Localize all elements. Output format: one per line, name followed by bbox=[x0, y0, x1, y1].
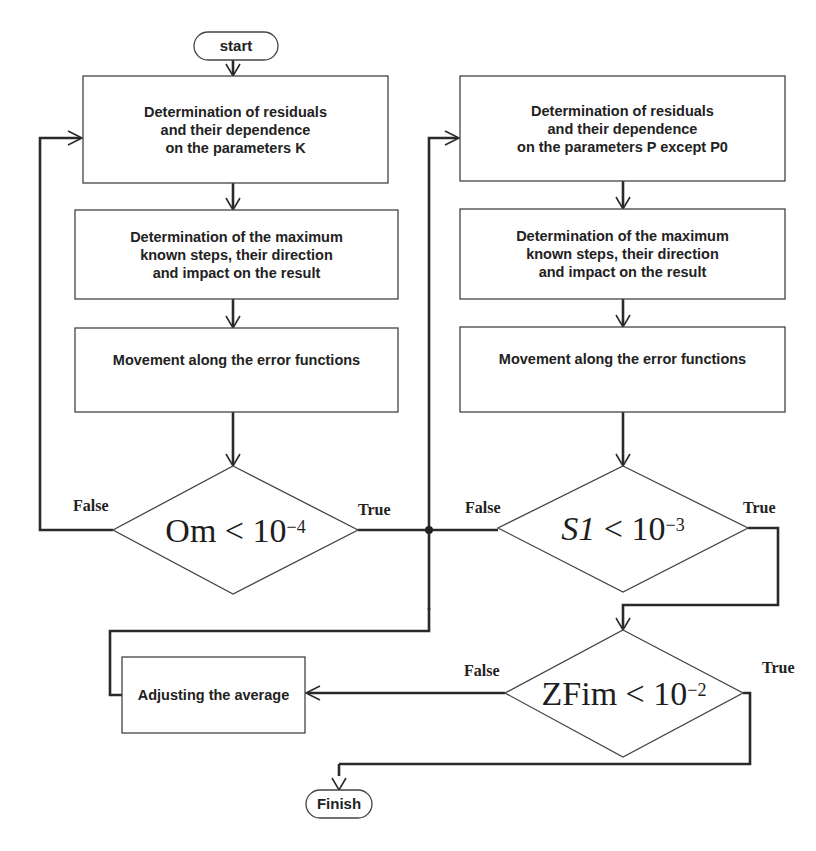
junction-dot bbox=[425, 526, 433, 534]
final-decision-base: 10 bbox=[653, 677, 687, 711]
right-decision-base: 10 bbox=[632, 512, 666, 546]
right-decision-lhs: S1 bbox=[561, 512, 595, 546]
left-decision-exp: −4 bbox=[287, 518, 306, 536]
right-decision-exp: −3 bbox=[666, 516, 685, 534]
left-step2-box: Determination of the maximum known steps… bbox=[75, 210, 398, 299]
right-false-label: False bbox=[465, 499, 501, 517]
left-step2-text: Determination of the maximum known steps… bbox=[130, 228, 343, 282]
left-true-label: True bbox=[358, 501, 391, 519]
start-label: start bbox=[220, 37, 253, 55]
final-decision-exp: −2 bbox=[687, 681, 706, 699]
left-step3-box: Movement along the error functions bbox=[75, 328, 398, 392]
final-decision-op: < bbox=[626, 677, 645, 711]
finish-terminal: Finish bbox=[306, 790, 372, 818]
final-true-label: True bbox=[762, 659, 795, 677]
right-step1-box: Determination of residuals and their dep… bbox=[460, 76, 785, 181]
left-decision-lhs: Om bbox=[165, 514, 216, 548]
right-decision: S1 < 10−3 bbox=[498, 508, 748, 550]
start-terminal: start bbox=[194, 32, 278, 60]
left-decision: Om < 10−4 bbox=[113, 510, 358, 552]
left-step3-text: Movement along the error functions bbox=[113, 351, 360, 369]
final-decision: ZFim < 10−2 bbox=[505, 673, 743, 715]
finish-label: Finish bbox=[317, 795, 361, 813]
right-step1-text: Determination of residuals and their dep… bbox=[517, 102, 728, 156]
left-decision-base: 10 bbox=[253, 514, 287, 548]
right-true-label: True bbox=[743, 499, 776, 517]
final-false-label: False bbox=[464, 662, 500, 680]
left-false-label: False bbox=[73, 497, 109, 515]
adjust-average-box: Adjusting the average bbox=[122, 657, 305, 733]
right-step3-box: Movement along the error functions bbox=[460, 327, 785, 391]
right-step2-text: Determination of the maximum known steps… bbox=[516, 227, 729, 281]
adjust-average-text: Adjusting the average bbox=[138, 686, 289, 704]
right-step3-text: Movement along the error functions bbox=[499, 350, 746, 368]
trunk-line bbox=[429, 138, 457, 610]
right-step2-box: Determination of the maximum known steps… bbox=[460, 209, 785, 299]
final-decision-lhs: ZFim bbox=[542, 677, 618, 711]
left-decision-op: < bbox=[225, 514, 244, 548]
right-decision-op: < bbox=[604, 512, 623, 546]
left-step1-box: Determination of residuals and their dep… bbox=[83, 76, 388, 183]
left-step1-text: Determination of residuals and their dep… bbox=[144, 103, 327, 157]
